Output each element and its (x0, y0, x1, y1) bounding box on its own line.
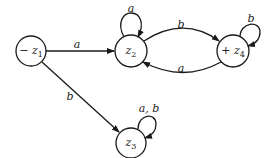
edge-z2-loop (121, 13, 142, 37)
state-z1-label: − z1 (19, 45, 43, 59)
edge-label-z4-loop: b (247, 13, 254, 24)
edge-z1-z3 (42, 62, 119, 132)
state-z4-label: + z4 (221, 45, 245, 59)
edge-label-z2-z4: b (177, 19, 184, 30)
edge-label-z2-loop: a (128, 3, 135, 14)
diagram-graphics (0, 0, 271, 158)
edge-label-z3-loop: a, b (139, 103, 160, 114)
state-z2-label: z2 (126, 45, 137, 59)
state-z3-label: z3 (126, 137, 137, 151)
edge-label-z4-z2: a (178, 63, 185, 74)
edge-label-z1-z3: b (66, 91, 73, 102)
edge-z3-loop (138, 116, 156, 138)
edge-z4-loop (240, 24, 260, 46)
edge-label-z1-z2: a (74, 39, 81, 50)
automaton-diagram: − z1 z2 z3 + z4 a b a b a b a, b (0, 0, 271, 158)
